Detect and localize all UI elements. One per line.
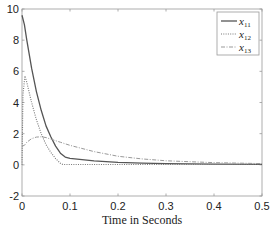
legend: x11x12x13	[217, 12, 259, 55]
y-tick-label: 6	[13, 65, 19, 77]
legend-label-subscript: 11	[244, 21, 251, 29]
x-axis-label: Time in Seconds	[102, 213, 183, 227]
y-tick-label: 10	[7, 3, 19, 15]
y-tick-label: 8	[13, 34, 19, 46]
x-tick-label: 0.5	[254, 200, 269, 212]
series-line-x12	[22, 76, 262, 165]
x-tick-label: 0.3	[158, 200, 173, 212]
y-tick-label: 4	[13, 97, 19, 109]
y-tick-label: -2	[9, 190, 19, 202]
x-tick-label: 0.2	[110, 200, 125, 212]
x-tick-label: 0.1	[62, 200, 77, 212]
line-chart: 00.10.20.30.40.5-20246810 x11x12x13 Time…	[0, 0, 274, 230]
y-tick-label: 0	[13, 159, 19, 171]
x-tick-label: 0	[19, 200, 25, 212]
legend-label-subscript: 13	[244, 47, 252, 55]
x-tick-label: 0.4	[206, 200, 221, 212]
legend-label-subscript: 12	[244, 34, 252, 42]
y-tick-label: 2	[13, 128, 19, 140]
